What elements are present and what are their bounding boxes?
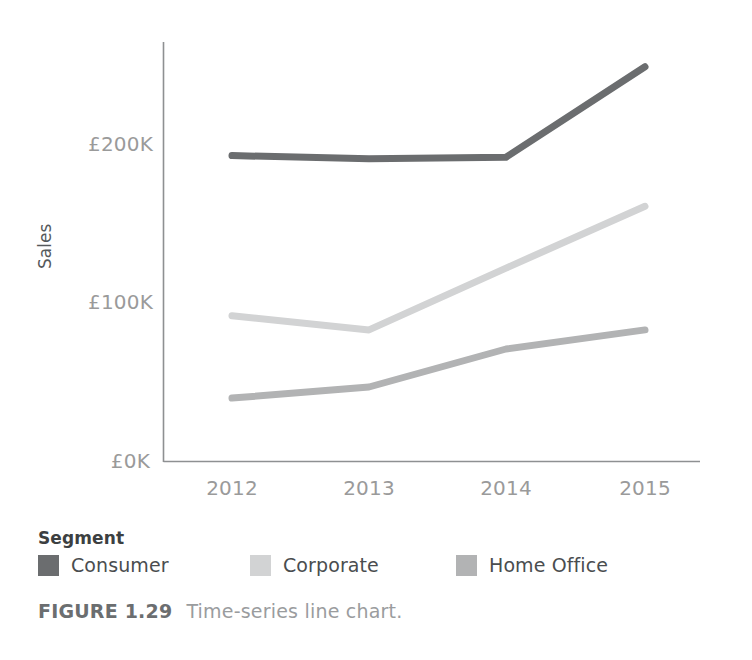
series-line-home-office[interactable] — [232, 330, 645, 398]
legend-item-corporate[interactable]: Corporate — [250, 554, 379, 576]
legend-title: Segment — [38, 528, 738, 548]
x-tick-label: 2014 — [456, 476, 556, 500]
series-group — [232, 67, 645, 398]
y-tick-label: £0K — [88, 449, 150, 473]
legend-item-consumer[interactable]: Consumer — [38, 554, 169, 576]
caption-figure-number: FIGURE 1.29 — [38, 600, 172, 622]
series-line-consumer[interactable] — [232, 67, 645, 159]
legend-item-label: Home Office — [489, 554, 608, 576]
legend-items: ConsumerCorporateHome Office — [38, 554, 738, 580]
legend: Segment ConsumerCorporateHome Office — [38, 528, 738, 580]
y-tick-label: £100K — [88, 290, 150, 314]
legend-swatch-icon — [250, 555, 271, 576]
y-axis-title: Sales — [35, 245, 55, 269]
legend-item-home-office[interactable]: Home Office — [456, 554, 608, 576]
legend-swatch-icon — [456, 555, 477, 576]
y-tick-label: £200K — [88, 132, 150, 156]
x-tick-label: 2015 — [595, 476, 695, 500]
legend-swatch-icon — [38, 555, 59, 576]
figure-caption: FIGURE 1.29Time-series line chart. — [38, 600, 402, 622]
figure-container: £0K£100K£200K 2012201320142015 Sales Seg… — [0, 0, 752, 660]
x-tick-label: 2013 — [319, 476, 419, 500]
series-line-corporate[interactable] — [232, 206, 645, 330]
legend-item-label: Corporate — [283, 554, 379, 576]
caption-text: Time-series line chart. — [186, 600, 402, 622]
legend-item-label: Consumer — [71, 554, 169, 576]
x-tick-label: 2012 — [182, 476, 282, 500]
plot-canvas — [0, 0, 752, 520]
line-chart: £0K£100K£200K 2012201320142015 Sales — [0, 0, 752, 520]
